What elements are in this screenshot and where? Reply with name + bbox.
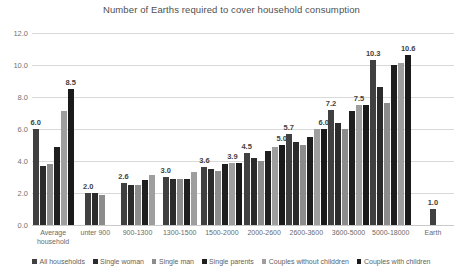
bar[interactable] bbox=[40, 166, 46, 225]
bar[interactable] bbox=[293, 142, 299, 225]
bar[interactable]: 7.5 bbox=[356, 105, 362, 225]
bar-value-label: 3.9 bbox=[227, 152, 237, 161]
x-axis-label-line: 1300-1500 bbox=[159, 229, 201, 238]
bar[interactable]: 3.6 bbox=[201, 167, 207, 225]
bar[interactable]: 4.5 bbox=[244, 153, 250, 225]
bar[interactable]: 1.0 bbox=[430, 209, 436, 225]
x-axis-line bbox=[32, 225, 454, 226]
y-axis-tick: 2.0 bbox=[18, 189, 28, 198]
bar[interactable] bbox=[377, 87, 383, 225]
bar-value-label: 2.0 bbox=[83, 182, 93, 191]
bar-group: 3.63.9 bbox=[201, 33, 243, 225]
legend-item[interactable]: Couples with children bbox=[357, 258, 431, 265]
bar-value-label: 2.6 bbox=[118, 172, 128, 181]
bar[interactable] bbox=[335, 123, 341, 225]
bar[interactable] bbox=[135, 185, 141, 225]
bar[interactable] bbox=[47, 164, 53, 225]
bar[interactable]: 7.2 bbox=[328, 110, 334, 225]
bar[interactable] bbox=[258, 161, 264, 225]
x-axis-label: 2600-3600 bbox=[285, 229, 327, 246]
legend-label: Couples with children bbox=[364, 258, 431, 265]
bar-group: 10.310.6 bbox=[370, 33, 412, 225]
legend-item[interactable]: All households bbox=[32, 258, 85, 265]
bar[interactable]: 2.0 bbox=[85, 193, 91, 225]
bar-value-label: 10.3 bbox=[366, 49, 381, 58]
legend-label: Single parents bbox=[209, 258, 254, 265]
bar[interactable] bbox=[349, 111, 355, 225]
legend-swatch-icon bbox=[357, 259, 362, 264]
bar[interactable] bbox=[342, 129, 348, 225]
x-axis-label-line: 2600-3600 bbox=[285, 229, 327, 238]
bar[interactable]: 3.0 bbox=[163, 177, 169, 225]
bar[interactable] bbox=[391, 65, 397, 225]
bar-group: 1.0 bbox=[412, 33, 454, 225]
x-axis-label-line: Average bbox=[32, 229, 74, 238]
x-axis-label: unter 900 bbox=[74, 229, 116, 246]
bar-group: 5.76.0 bbox=[285, 33, 327, 225]
bar[interactable]: 6.0 bbox=[321, 129, 327, 225]
bar[interactable] bbox=[314, 129, 320, 225]
bar[interactable] bbox=[184, 179, 190, 225]
chart-container: Number of Earths required to cover house… bbox=[0, 0, 463, 277]
bar[interactable] bbox=[170, 179, 176, 225]
bar-group: 2.0 bbox=[74, 33, 116, 225]
legend-item[interactable]: Single parents bbox=[202, 258, 254, 265]
bar[interactable]: 3.9 bbox=[229, 163, 235, 225]
bar-value-label: 5.7 bbox=[284, 123, 294, 132]
legend-item[interactable]: Single woman bbox=[93, 258, 144, 265]
bar-groups: 6.08.52.02.63.03.63.94.55.05.76.07.27.51… bbox=[32, 33, 454, 225]
bar[interactable]: 5.0 bbox=[279, 145, 285, 225]
y-axis-tick: 12.0 bbox=[13, 29, 28, 38]
bar[interactable] bbox=[222, 164, 228, 225]
x-axis-label-line: 5000-18000 bbox=[370, 229, 412, 238]
bar[interactable]: 2.6 bbox=[121, 183, 127, 225]
bar[interactable] bbox=[398, 63, 404, 225]
plot-area: 0.02.04.06.08.010.012.0 6.08.52.02.63.03… bbox=[32, 33, 454, 225]
x-axis-label-line: 3600-5000 bbox=[327, 229, 369, 238]
bar[interactable] bbox=[61, 111, 67, 225]
x-axis-label-line: household bbox=[32, 238, 74, 247]
bar[interactable] bbox=[99, 195, 105, 225]
bar-group: 7.27.5 bbox=[327, 33, 369, 225]
bar[interactable] bbox=[92, 193, 98, 225]
bar[interactable] bbox=[149, 175, 155, 225]
bar[interactable] bbox=[208, 169, 214, 225]
bar[interactable] bbox=[128, 185, 134, 225]
bar[interactable] bbox=[177, 179, 183, 225]
bar-value-label: 7.5 bbox=[354, 94, 364, 103]
bar[interactable]: 5.7 bbox=[286, 134, 292, 225]
bar-value-label: 1.0 bbox=[428, 198, 438, 207]
legend-item[interactable]: Couples without childdren bbox=[262, 258, 349, 265]
bar[interactable] bbox=[251, 158, 257, 225]
bar[interactable]: 6.0 bbox=[33, 129, 39, 225]
bar[interactable] bbox=[191, 172, 197, 225]
bar-group: 3.0 bbox=[159, 33, 201, 225]
bar[interactable] bbox=[142, 180, 148, 225]
bar[interactable] bbox=[54, 147, 60, 225]
legend-swatch-icon bbox=[262, 259, 267, 264]
bar[interactable] bbox=[272, 147, 278, 225]
bar[interactable] bbox=[384, 103, 390, 225]
y-axis-tick: 8.0 bbox=[18, 93, 28, 102]
bar-value-label: 6.0 bbox=[30, 118, 40, 127]
bar[interactable] bbox=[265, 151, 271, 225]
x-axis-label: 2000-2600 bbox=[243, 229, 285, 246]
bar[interactable]: 10.3 bbox=[370, 60, 376, 225]
y-axis-tick: 0.0 bbox=[18, 221, 28, 230]
bar[interactable] bbox=[307, 137, 313, 225]
legend-label: Single woman bbox=[100, 258, 144, 265]
bar-value-label: 4.5 bbox=[241, 142, 251, 151]
legend-swatch-icon bbox=[93, 259, 98, 264]
bar[interactable] bbox=[363, 105, 369, 225]
x-axis-label-line: unter 900 bbox=[74, 229, 116, 238]
bar-value-label: 7.2 bbox=[326, 99, 336, 108]
y-axis-tick: 10.0 bbox=[13, 61, 28, 70]
bar[interactable] bbox=[300, 145, 306, 225]
legend-item[interactable]: Single man bbox=[152, 258, 194, 265]
chart-legend: All householdsSingle womanSingle manSing… bbox=[0, 258, 463, 265]
bar[interactable] bbox=[236, 163, 242, 225]
bar[interactable] bbox=[215, 171, 221, 225]
bar[interactable]: 8.5 bbox=[68, 89, 74, 225]
bar[interactable]: 10.6 bbox=[405, 55, 411, 225]
y-axis-tick: 6.0 bbox=[18, 125, 28, 134]
